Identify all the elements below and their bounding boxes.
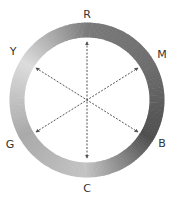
label-c: C	[83, 182, 91, 195]
label-r: R	[83, 8, 91, 21]
label-g: G	[6, 138, 15, 151]
complementary-arrows	[36, 42, 138, 158]
label-m: M	[157, 48, 167, 61]
color-wheel-diagram: RMBCGY	[0, 0, 172, 207]
label-b: B	[158, 137, 166, 150]
label-y: Y	[9, 45, 17, 58]
